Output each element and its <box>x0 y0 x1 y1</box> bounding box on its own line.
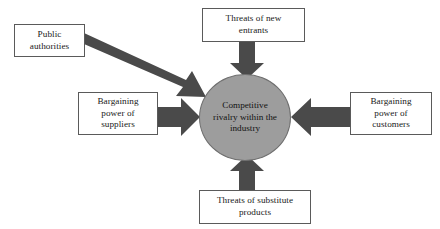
node-competitive-rivalry-label: Competitive rivalry within the industry <box>207 100 283 135</box>
node-bargaining-power-of-customers: Bargaining power of customers <box>350 92 432 135</box>
arrow-suppliers-icon <box>158 98 200 136</box>
node-threats-of-substitute-products: Threats of substitute products <box>199 190 311 224</box>
node-substitute-products-label: Threats of substitute products <box>215 195 295 218</box>
node-public-authorities-label: Public authorities <box>28 29 71 52</box>
node-competitive-rivalry: Competitive rivalry within the industry <box>199 74 291 161</box>
node-customers-label: Bargaining power of customers <box>368 96 413 131</box>
arrow-public-authorities-icon <box>84 33 206 97</box>
node-public-authorities: Public authorities <box>14 24 85 57</box>
competitive-forces-diagram: Public authorities Threats of new entran… <box>0 0 440 229</box>
node-suppliers-label: Bargaining power of suppliers <box>95 96 140 131</box>
node-new-entrants: Threats of new entrants <box>202 8 305 42</box>
node-bargaining-power-of-suppliers: Bargaining power of suppliers <box>78 92 158 135</box>
node-new-entrants-label: Threats of new entrants <box>224 13 284 36</box>
arrow-customers-icon <box>291 98 350 136</box>
